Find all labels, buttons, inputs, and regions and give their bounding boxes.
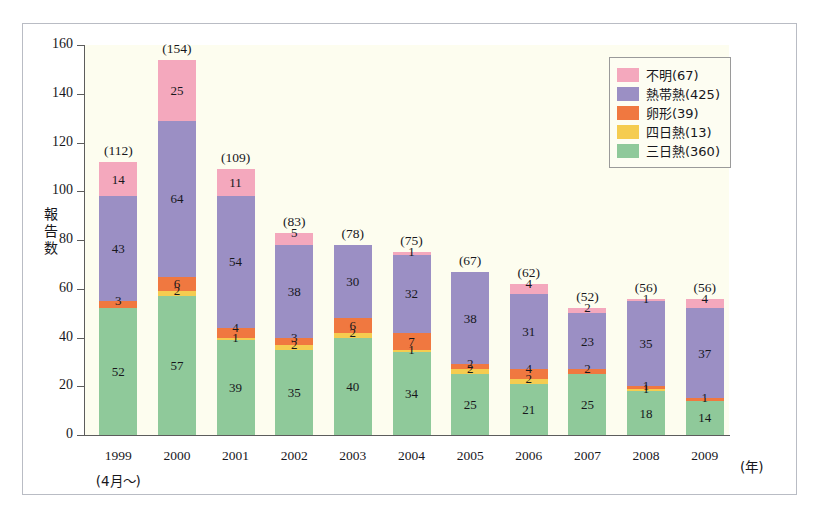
bar-segment-value: 4 <box>701 292 708 305</box>
bar-segment-value: 64 <box>170 192 183 205</box>
bar-segment-value: 25 <box>170 84 183 97</box>
bar-segment-value: 54 <box>229 255 242 268</box>
bar-stack: 141374 <box>686 299 724 436</box>
y-axis-tick-label: 80 <box>28 231 73 247</box>
y-axis-tick <box>77 94 84 95</box>
y-axis-tick <box>77 386 84 387</box>
bar-total-label: (154) <box>162 41 191 57</box>
x-axis-label: 2009 <box>670 448 740 464</box>
bar-segment: 2 <box>275 345 313 350</box>
bar-segment-value: 2 <box>584 301 591 314</box>
bar-segment: 25 <box>568 374 606 435</box>
bar-total-label: (112) <box>104 143 133 159</box>
bar-segment-value: 4 <box>526 362 533 375</box>
bar-segment: 25 <box>158 60 196 121</box>
y-axis-tick-label-wrap: 60 <box>28 280 73 296</box>
bar-segment: 37 <box>686 308 724 398</box>
bar-segment-value: 1 <box>643 379 650 392</box>
y-axis-tick-label: 60 <box>28 280 73 296</box>
bar-segment: 2 <box>334 333 372 338</box>
bar-segment-value: 2 <box>467 357 474 370</box>
bar-segment: 1 <box>217 338 255 340</box>
bar-segment: 35 <box>275 350 313 435</box>
bar-segment: 38 <box>451 272 489 365</box>
bar-segment: 6 <box>334 318 372 333</box>
bar-segment-value: 1 <box>408 245 415 258</box>
y-axis-tick <box>77 143 84 144</box>
y-axis-tick-label-wrap: 80 <box>28 231 73 247</box>
bar-segment-value: 32 <box>405 287 418 300</box>
bar-segment-value: 57 <box>170 359 183 372</box>
bar-stack: 402630 <box>334 245 372 435</box>
bar-stack: 2124314 <box>510 284 548 435</box>
y-axis-tick-label: 140 <box>28 85 73 101</box>
bar-total-label: (67) <box>459 253 482 269</box>
y-axis-tick <box>77 289 84 290</box>
y-axis-tick <box>77 240 84 241</box>
bar-segment-value: 43 <box>112 242 125 255</box>
bar-segment: 43 <box>99 196 137 301</box>
y-axis-tick-label: 120 <box>28 134 73 150</box>
bar-segment: 14 <box>99 162 137 196</box>
bar-stack: 1811351 <box>627 299 665 436</box>
bar-segment: 2 <box>451 364 489 369</box>
bar-segment-value: 35 <box>288 386 301 399</box>
y-axis-tick-label-wrap: 40 <box>28 329 73 345</box>
bar-stack: 3417321 <box>393 252 431 435</box>
bar-stack: 57266425 <box>158 60 196 435</box>
bar-segment: 3 <box>275 338 313 345</box>
bar-segment-value: 40 <box>346 380 359 393</box>
legend-item: 三日熱(360) <box>617 142 723 159</box>
bar-segment-value: 34 <box>405 387 418 400</box>
bar-segment-value: 18 <box>640 407 653 420</box>
bar-segment: 4 <box>510 284 548 294</box>
legend-item: 不明(67) <box>617 66 723 83</box>
legend-item: 四日熱(13) <box>617 123 723 140</box>
bar-segment: 64 <box>158 121 196 277</box>
chart-root: 報告数 020406080100120140160 52343145726642… <box>0 0 819 517</box>
bar-segment: 7 <box>393 333 431 350</box>
bar-segment: 1 <box>627 386 665 388</box>
legend-item: 熱帯熱(425) <box>617 85 723 102</box>
y-axis-tick-label-wrap: 140 <box>28 85 73 101</box>
bar-segment: 1 <box>627 299 665 301</box>
bar-segment: 38 <box>275 245 313 338</box>
y-axis-tick <box>77 435 84 436</box>
y-axis-tick <box>77 191 84 192</box>
bar-segment: 39 <box>217 340 255 435</box>
bar-segment-value: 23 <box>581 335 594 348</box>
legend-label: 不明(67) <box>646 65 699 84</box>
bar-segment-value: 21 <box>522 403 535 416</box>
bar-segment-value: 38 <box>288 285 301 298</box>
x-axis-line <box>84 435 730 436</box>
bar-segment-value: 11 <box>229 176 242 189</box>
bar-segment: 5 <box>275 233 313 245</box>
legend-label: 卵形(39) <box>646 103 699 122</box>
bar-segment-value: 1 <box>643 292 650 305</box>
legend-swatch <box>617 106 639 120</box>
bar-segment: 30 <box>334 245 372 318</box>
legend-swatch <box>617 144 639 158</box>
bar-segment: 4 <box>686 299 724 309</box>
bar-segment-value: 52 <box>112 365 125 378</box>
bar-segment-value: 39 <box>229 381 242 394</box>
y-axis-tick-label-wrap: 120 <box>28 134 73 150</box>
bar-segment: 2 <box>568 369 606 374</box>
bar-segment: 21 <box>510 384 548 435</box>
bar-segment-value: 6 <box>174 277 181 290</box>
bar-stack: 39145411 <box>217 169 255 435</box>
bar-segment-value: 4 <box>526 277 533 290</box>
bar-segment-value: 7 <box>408 335 415 348</box>
bar-stack: 3523385 <box>275 233 313 435</box>
bar-segment-value: 38 <box>464 312 477 325</box>
bar-stack: 5234314 <box>99 162 137 435</box>
bar-stack: 252232 <box>568 308 606 435</box>
bar-segment: 52 <box>99 308 137 435</box>
bar-segment: 35 <box>627 301 665 386</box>
legend-swatch <box>617 68 639 82</box>
y-axis-tick-label-wrap: 100 <box>28 182 73 198</box>
bar-segment-value: 25 <box>464 398 477 411</box>
bar-segment: 54 <box>217 196 255 328</box>
bar-segment-value: 6 <box>350 319 357 332</box>
bar-segment-value: 2 <box>584 362 591 375</box>
